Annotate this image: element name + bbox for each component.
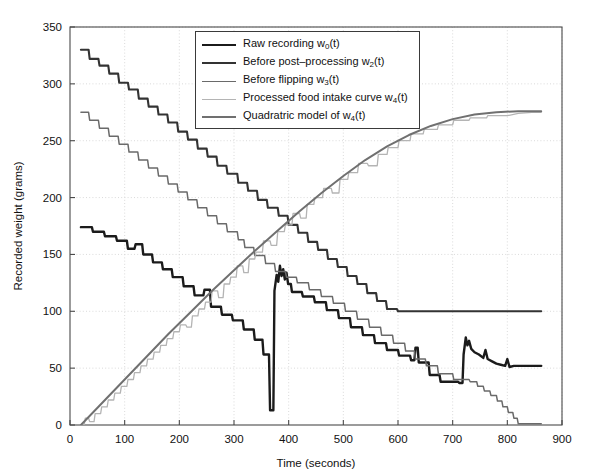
x-tick-label: 800 [498, 433, 517, 445]
series-line-3 [81, 112, 541, 425]
legend-label-w3: Before flipping w3(t) [243, 74, 339, 87]
y-tick-label: 0 [56, 419, 62, 431]
x-tick-label: 700 [443, 433, 462, 445]
y-tick-label: 50 [49, 362, 62, 374]
x-tick-label: 900 [552, 433, 571, 445]
legend-swatch-w4 [202, 99, 236, 100]
legend-swatch-w0 [202, 44, 236, 46]
y-tick-label: 300 [43, 78, 62, 90]
legend-label-w2: Before post–processing w2(t) [243, 56, 384, 69]
x-tick-label: 0 [67, 433, 73, 445]
x-tick-label: 500 [334, 433, 353, 445]
x-tick-label: 300 [224, 433, 243, 445]
legend-label-quad: Quadratric model of w4(t) [243, 110, 365, 123]
x-tick-label: 400 [279, 433, 298, 445]
y-tick-label: 100 [43, 305, 62, 317]
series-line-2 [81, 112, 541, 424]
chart-legend: Raw recording w0(t)Before post–processin… [195, 31, 420, 129]
y-tick-label: 200 [43, 192, 62, 204]
x-tick-label: 100 [115, 433, 134, 445]
legend-item-w3: Before flipping w3(t) [196, 72, 419, 90]
y-tick-label: 350 [43, 21, 62, 33]
series-line-0 [81, 227, 541, 410]
x-tick-label: 200 [170, 433, 189, 445]
figure-container: 0100200300400500600700800900050100150200… [0, 0, 600, 475]
y-axis-title: Recorded weight (grams) [12, 161, 24, 290]
legend-item-quad: Quadratric model of w4(t) [196, 108, 419, 126]
legend-swatch-quad [202, 116, 236, 118]
legend-item-w4: Processed food intake curve w4(t) [196, 90, 419, 108]
y-tick-label: 250 [43, 135, 62, 147]
legend-swatch-w2 [202, 62, 236, 64]
y-tick-label: 150 [43, 248, 62, 260]
legend-item-w0: Raw recording w0(t) [196, 36, 419, 54]
x-tick-label: 600 [388, 433, 407, 445]
legend-label-w4: Processed food intake curve w4(t) [243, 92, 408, 105]
series-line-4 [81, 111, 541, 425]
legend-item-w2: Before post–processing w2(t) [196, 54, 419, 72]
x-axis-title: Time (seconds) [277, 457, 356, 469]
legend-swatch-w3 [202, 81, 236, 82]
legend-label-w0: Raw recording w0(t) [243, 38, 340, 51]
